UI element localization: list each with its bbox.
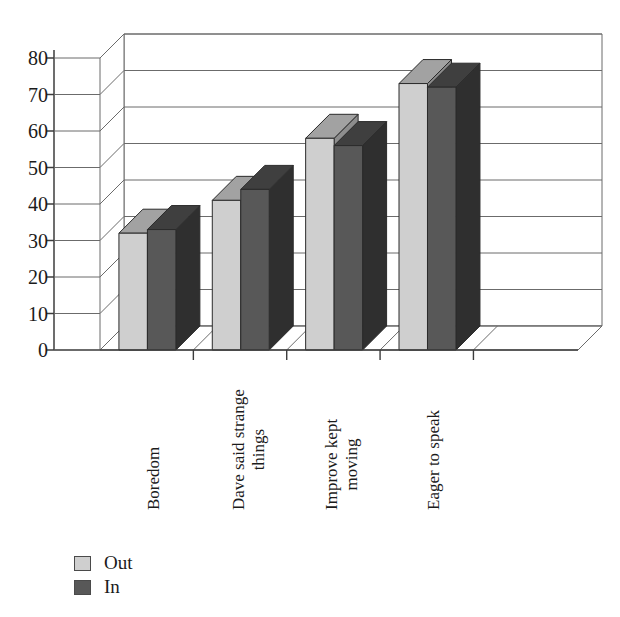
x-axis-category-1: Dave said strangethings [229,389,269,510]
x-axis-category-2-line-0: Improve kept [322,419,341,510]
legend-label-out: Out [104,552,133,574]
legend-swatch-out-icon [74,556,91,571]
x-axis-category-3-line-0: Eager to speak [424,410,443,510]
x-axis-category-2-line-1: moving [342,419,362,510]
x-axis-category-labels: BoredomDave said strangethingsImprove ke… [0,0,620,617]
legend-item-out[interactable]: Out [74,551,133,575]
x-axis-category-2: Improve keptmoving [322,419,362,510]
legend-item-in[interactable]: In [74,575,133,599]
x-axis-category-3: Eager to speak [424,410,444,510]
x-axis-category-0-line-0: Boredom [144,447,163,510]
legend-label-in: In [104,576,120,598]
x-axis-category-1-line-1: things [249,389,269,510]
legend-swatch-in-icon [74,580,91,595]
chart-container: 80706050403020100 BoredomDave said stran… [0,0,620,617]
chart-legend: Out In [74,551,133,599]
x-axis-category-1-line-0: Dave said strange [229,389,248,510]
x-axis-category-0: Boredom [144,447,164,510]
